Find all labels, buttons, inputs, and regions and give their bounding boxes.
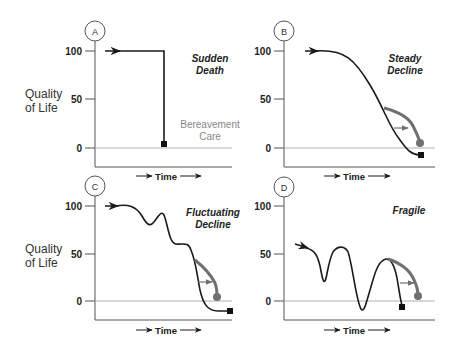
- bereavement-care-label: Bereavement: [180, 119, 240, 130]
- panel-a-letter: A: [92, 27, 98, 37]
- svg-text:100: 100: [254, 201, 271, 212]
- x-axis-label: Time: [155, 171, 177, 182]
- svg-text:0: 0: [265, 296, 271, 307]
- bereavement-care-label-2: Care: [199, 131, 221, 142]
- palliative-marker: [213, 293, 221, 301]
- panel-c: C 100 50 0 Quality of Life Fluctuating D…: [25, 176, 240, 336]
- y-axis-label: Quality: [25, 87, 62, 101]
- death-marker: [227, 308, 233, 314]
- illness-trajectories-figure: A 100 50 0 Quality of Life Sudden Death …: [0, 0, 455, 353]
- tick-50: 50: [71, 94, 83, 105]
- panel-c-letter: C: [92, 182, 99, 192]
- panel-a-title: Sudden: [192, 53, 229, 64]
- y-axis-label-2: of Life: [25, 256, 58, 270]
- svg-text:50: 50: [260, 249, 272, 260]
- panel-b: B 100 50 0 Steady Decline Time: [254, 21, 435, 182]
- death-marker: [418, 152, 424, 158]
- panel-d-title: Fragile: [393, 205, 426, 216]
- tick-100: 100: [65, 46, 82, 57]
- panel-a: A 100 50 0 Quality of Life Sudden Death …: [25, 21, 240, 182]
- svg-text:0: 0: [265, 143, 271, 154]
- palliative-line: [384, 108, 420, 143]
- panel-a-title-2: Death: [196, 65, 224, 76]
- panel-c-title-2: Decline: [195, 219, 231, 230]
- palliative-marker: [414, 292, 422, 300]
- svg-text:Time: Time: [343, 325, 365, 336]
- svg-text:Time: Time: [343, 171, 365, 182]
- panel-b-title-2: Decline: [387, 65, 423, 76]
- svg-text:100: 100: [65, 201, 82, 212]
- palliative-marker: [416, 139, 424, 147]
- death-marker: [161, 141, 167, 147]
- svg-text:100: 100: [254, 46, 271, 57]
- y-axis-label: Quality: [25, 242, 62, 256]
- svg-text:50: 50: [260, 94, 272, 105]
- svg-text:Time: Time: [155, 325, 177, 336]
- panel-b-letter: B: [281, 27, 287, 37]
- panel-b-title: Steady: [389, 53, 422, 64]
- panel-d-letter: D: [281, 183, 288, 193]
- panel-c-title: Fluctuating: [186, 207, 240, 218]
- death-marker: [399, 304, 405, 310]
- trajectory-line: [118, 51, 164, 145]
- svg-text:0: 0: [76, 296, 82, 307]
- tick-0: 0: [76, 143, 82, 154]
- panel-d: D 100 50 0 Fragile Time: [254, 177, 435, 336]
- y-axis-label-2: of Life: [25, 101, 58, 115]
- svg-text:50: 50: [71, 249, 83, 260]
